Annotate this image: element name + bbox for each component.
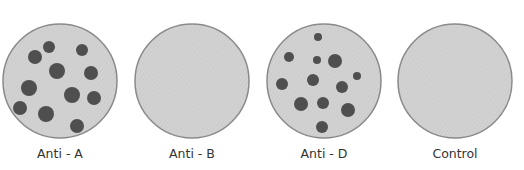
label-control: Control (395, 146, 515, 161)
agglutination-clump (64, 87, 80, 103)
agglutination-clump (341, 103, 355, 117)
agglutination-clump (336, 81, 348, 93)
agglutination-clump (70, 119, 84, 133)
plate-circle (398, 24, 512, 138)
agglutination-clump (314, 33, 322, 41)
agglutination-clump (284, 52, 294, 62)
agglutination-clump (317, 97, 329, 109)
plates-canvas (0, 0, 524, 170)
agglutination-clump (28, 50, 42, 64)
label-anti-a: Anti - A (0, 146, 120, 161)
agglutination-clump (21, 80, 37, 96)
agglutination-clump (13, 101, 27, 115)
agglutination-clump (353, 72, 361, 80)
plate-control (398, 24, 512, 138)
plate-anti-b (135, 24, 249, 138)
agglutination-clump (76, 44, 88, 56)
plate-anti-a (3, 24, 117, 138)
blood-typing-diagram: Anti - A Anti - B Anti - D Control (0, 0, 524, 170)
agglutination-clump (307, 74, 319, 86)
agglutination-clump (84, 66, 98, 80)
agglutination-clump (43, 41, 55, 53)
agglutination-clump (328, 54, 342, 68)
agglutination-clump (276, 78, 288, 90)
agglutination-clump (87, 91, 101, 105)
label-anti-d: Anti - D (264, 146, 384, 161)
label-anti-b: Anti - B (132, 146, 252, 161)
agglutination-clump (316, 121, 328, 133)
agglutination-clump (38, 106, 54, 122)
agglutination-clump (49, 63, 65, 79)
plate-circle (135, 24, 249, 138)
plate-circle (3, 24, 117, 138)
plate-anti-d (267, 24, 381, 138)
agglutination-clump (313, 56, 321, 64)
agglutination-clump (294, 97, 308, 111)
